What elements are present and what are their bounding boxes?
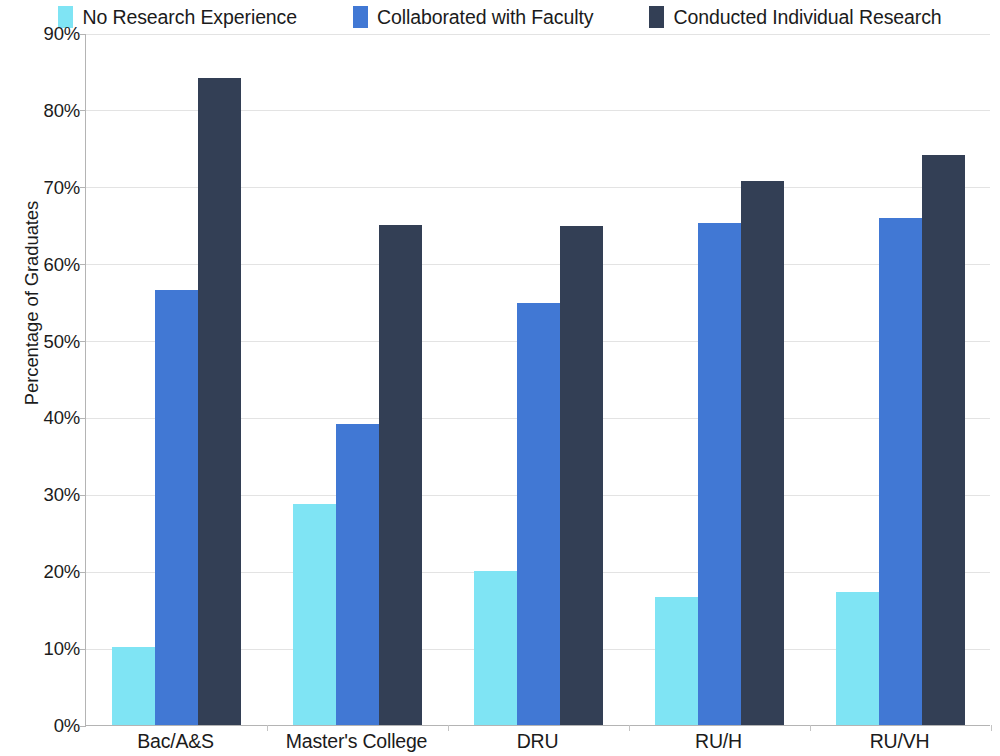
chart-legend: No Research Experience Collaborated with… xyxy=(0,0,1000,34)
legend-label-no-research: No Research Experience xyxy=(82,6,297,29)
legend-label-individual: Conducted Individual Research xyxy=(673,6,941,29)
x-tick-label: Master's College xyxy=(286,730,427,753)
bar xyxy=(379,225,422,725)
bar xyxy=(922,155,965,725)
y-tick-label: 60% xyxy=(24,254,80,276)
y-axis-tick-labels: 0%10%20%30%40%50%60%70%80%90% xyxy=(24,34,80,726)
bar xyxy=(836,592,879,725)
bar xyxy=(112,647,155,725)
bar xyxy=(155,290,198,725)
x-tickmark xyxy=(991,725,992,731)
y-tick-label: 70% xyxy=(24,177,80,199)
bar-group xyxy=(810,34,991,725)
chart-plot-area: Percentage of Graduates 0%10%20%30%40%50… xyxy=(0,34,1000,726)
x-tick-label: RU/H xyxy=(695,730,742,753)
bar-group xyxy=(267,34,448,725)
legend-item-individual: Conducted Individual Research xyxy=(649,6,941,29)
y-tick-label: 10% xyxy=(24,638,80,660)
x-tick-label: DRU xyxy=(517,730,559,753)
y-tick-label: 90% xyxy=(24,23,80,45)
bar xyxy=(517,303,560,725)
bar-group xyxy=(86,34,267,725)
bar xyxy=(560,226,603,725)
x-tick-label: Bac/A&S xyxy=(137,730,214,753)
legend-swatch-icon-individual xyxy=(649,6,664,28)
legend-item-no-research: No Research Experience xyxy=(58,6,297,29)
bar xyxy=(474,571,517,725)
legend-swatch-icon-collaborated xyxy=(353,6,368,28)
x-tick-label: RU/VH xyxy=(870,730,930,753)
bar-group xyxy=(448,34,629,725)
legend-label-collaborated: Collaborated with Faculty xyxy=(377,6,593,29)
bar-group xyxy=(629,34,810,725)
chart-canvas xyxy=(85,34,990,726)
y-tick-label: 0% xyxy=(24,715,80,737)
y-tick-label: 20% xyxy=(24,561,80,583)
y-tick-label: 50% xyxy=(24,331,80,353)
bar xyxy=(336,424,379,725)
y-tick-label: 80% xyxy=(24,100,80,122)
bar xyxy=(741,181,784,725)
bar xyxy=(293,504,336,725)
x-axis-tick-labels: Bac/A&SMaster's CollegeDRURU/HRU/VH xyxy=(85,726,990,756)
bar xyxy=(698,223,741,725)
legend-item-collaborated: Collaborated with Faculty xyxy=(353,6,593,29)
y-tick-label: 30% xyxy=(24,484,80,506)
bar xyxy=(655,597,698,725)
bar xyxy=(198,78,241,725)
y-tick-label: 40% xyxy=(24,407,80,429)
bar xyxy=(879,218,922,725)
